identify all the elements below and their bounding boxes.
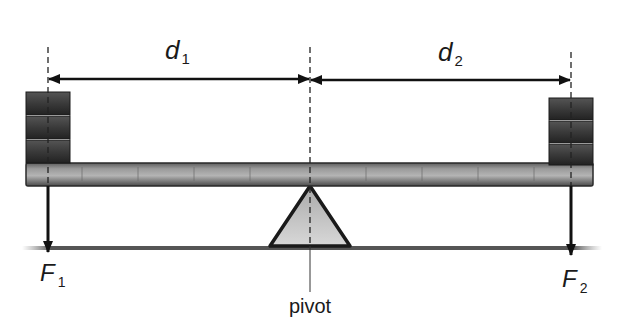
lever-diagram: d1 d2 F1 F2 pivot [0,0,621,333]
d2-label: d2 [438,37,463,69]
pivot-label: pivot [289,295,332,317]
f2-label: F2 [562,265,588,296]
f1-label: F1 [40,259,66,290]
d1-label: d1 [165,35,190,67]
